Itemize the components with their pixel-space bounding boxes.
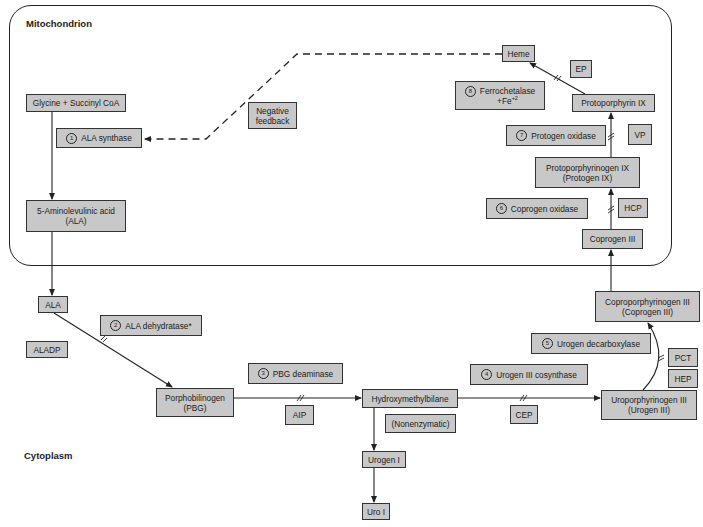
urogen-i-label: Urogen I [368, 455, 400, 465]
hydroxymethylbilane-label: Hydroxymethylbilane [371, 394, 448, 404]
enzyme-1-box: 1 ALA synthase [56, 128, 142, 148]
ala-mito-abbrev: (ALA) [65, 216, 86, 226]
coprogen-iii-mito-box: Coprogen III [582, 229, 643, 249]
ala-cyto-box: ALA [38, 296, 68, 313]
disease-ep-box: EP [570, 60, 592, 78]
disease-aladp-box: ALADP [26, 341, 68, 358]
negative-feedback-box: Negative feedback [248, 102, 297, 129]
enzyme-2-label: ALA dehydratase* [125, 321, 191, 331]
disease-hcp-label: HCP [624, 203, 642, 213]
disease-hep-box: HEP [668, 369, 698, 388]
coproporphyrinogen-iii-box: Coproporphyrinogen III (Coprogen III) [595, 291, 700, 322]
disease-aladp-label: ALADP [33, 345, 60, 355]
porphobilinogen-label: Porphobilinogen [165, 393, 225, 403]
protoporphyrinogen-ix-label: Protoporphyrinogen IX [546, 163, 629, 173]
glycine-succinyl-coa-box: Glycine + Succinyl CoA [26, 94, 126, 112]
heme-synthesis-diagram: Mitochondrion Cytoplasm [0, 0, 703, 527]
disease-pct-box: PCT [668, 348, 698, 367]
uroporphyrinogen-iii-label: Uroporphyrinogen III [611, 395, 687, 405]
negative-feedback-label: Negative [256, 106, 289, 116]
porphobilinogen-abbrev: (PBG) [183, 403, 206, 413]
enzyme-7-label: Protogen oxidase [531, 131, 596, 141]
enzyme-8-box: 8 Ferrochetalase +Fe+2 [455, 81, 545, 110]
cytoplasm-label: Cytoplasm [24, 450, 73, 461]
porphobilinogen-box: Porphobilinogen (PBG) [156, 388, 234, 417]
enzyme-3-label: PBG deaminase [273, 369, 333, 379]
protoporphyrin-ix-label: Protoporphyrin IX [581, 98, 646, 108]
enzyme-4-box: 4 Urogen III cosynthase [470, 364, 588, 385]
negative-feedback-label-2: feedback [256, 116, 290, 126]
enzyme-number-6-icon: 6 [496, 203, 507, 214]
enzyme-8-label: Ferrochetalase [480, 86, 535, 96]
ala-mito-label: 5-Aminolevulinic acid [37, 206, 115, 216]
enzyme-number-4-icon: 4 [481, 369, 492, 380]
enzyme-number-2-icon: 2 [110, 320, 121, 331]
enzyme-number-5-icon: 5 [542, 338, 553, 349]
enzyme-7-box: 7 Protogen oxidase [506, 125, 606, 146]
coproporphyrinogen-iii-abbrev: (Coprogen III) [622, 307, 673, 317]
enzyme-number-1-icon: 1 [66, 133, 77, 144]
uro-i-box: Uro I [362, 503, 390, 520]
enzyme-4-label: Urogen III cosynthase [496, 370, 577, 380]
enzyme-6-box: 6 Coprogen oxidase [486, 198, 588, 219]
protoporphyrinogen-ix-abbrev: (Protogen IX) [563, 173, 612, 183]
disease-cep-box: CEP [510, 405, 538, 424]
glycine-succinyl-coa-label: Glycine + Succinyl CoA [33, 98, 119, 108]
disease-pct-label: PCT [675, 353, 692, 363]
heme-box: Heme [502, 45, 535, 62]
heme-label: Heme [507, 49, 529, 59]
coprogen-iii-mito-label: Coprogen III [590, 234, 636, 244]
disease-hep-label: HEP [674, 374, 691, 384]
nonenzymatic-box: (Nonenzymatic) [385, 414, 456, 433]
enzyme-8-cofactor: +Fe [497, 96, 512, 106]
enzyme-3-box: 3 PBG deaminase [248, 363, 343, 384]
disease-aip-label: AIP [293, 410, 306, 420]
uro-i-label: Uro I [367, 507, 385, 517]
protoporphyrinogen-ix-box: Protoporphyrinogen IX (Protogen IX) [535, 157, 640, 188]
enzyme-5-box: 5 Urogen decarboxylase [531, 333, 651, 354]
protoporphyrin-ix-box: Protoporphyrin IX [572, 94, 655, 112]
nonenzymatic-label: (Nonenzymatic) [391, 419, 449, 429]
enzyme-number-7-icon: 7 [516, 130, 527, 141]
enzyme-6-label: Coprogen oxidase [511, 204, 578, 214]
urogen-i-box: Urogen I [362, 451, 406, 468]
disease-hcp-box: HCP [618, 198, 648, 218]
ala-mito-box: 5-Aminolevulinic acid (ALA) [26, 200, 126, 232]
enzyme-8-charge: +2 [512, 95, 518, 101]
enzyme-2-box: 2 ALA dehydratase* [100, 315, 202, 336]
coproporphyrinogen-iii-label: Coproporphyrinogen III [605, 297, 690, 307]
disease-vp-box: VP [628, 124, 652, 145]
enzyme-5-label: Urogen decarboxylase [557, 339, 640, 349]
disease-vp-label: VP [634, 130, 645, 140]
enzyme-number-8-icon: 8 [465, 86, 476, 97]
ala-cyto-label: ALA [45, 300, 61, 310]
disease-cep-label: CEP [515, 410, 532, 420]
disease-aip-box: AIP [285, 405, 314, 425]
hydroxymethylbilane-box: Hydroxymethylbilane [362, 389, 458, 408]
uroporphyrinogen-iii-abbrev: (Urogen III) [628, 405, 670, 415]
enzyme-1-label: ALA synthase [81, 133, 132, 143]
mitochondrion-label: Mitochondrion [26, 18, 92, 29]
uroporphyrinogen-iii-box: Uroporphyrinogen III (Urogen III) [601, 390, 697, 420]
disease-ep-label: EP [575, 64, 586, 74]
enzyme-number-3-icon: 3 [258, 368, 269, 379]
